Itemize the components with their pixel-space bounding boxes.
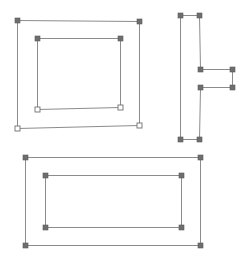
- vertex-handle-filled[interactable]: [230, 67, 235, 72]
- vertex-handle-filled[interactable]: [198, 243, 203, 248]
- polygon-outline[interactable]: [38, 39, 121, 110]
- vertex-handle-hollow[interactable]: [137, 123, 142, 128]
- vertex-handle-filled[interactable]: [198, 155, 203, 160]
- diagram-canvas: [0, 0, 246, 273]
- vertex-handle-filled[interactable]: [198, 67, 203, 72]
- vertex-handle-filled[interactable]: [198, 85, 203, 90]
- vertex-handle-hollow[interactable]: [118, 105, 123, 110]
- vertex-handle-filled[interactable]: [118, 36, 123, 41]
- vertex-handle-filled[interactable]: [178, 13, 183, 18]
- polygon-outline[interactable]: [46, 176, 182, 228]
- shape-bottom-inner[interactable]: [43, 173, 184, 230]
- vertex-handle-filled[interactable]: [230, 85, 235, 90]
- vertex-handle-filled[interactable]: [178, 137, 183, 142]
- polygon-outline[interactable]: [26, 158, 201, 246]
- shape-bottom-outer[interactable]: [23, 155, 203, 248]
- vertex-handle-filled[interactable]: [137, 19, 142, 24]
- vertex-handle-hollow[interactable]: [15, 126, 20, 131]
- polygon-outline[interactable]: [181, 16, 233, 140]
- vertex-handle-filled[interactable]: [15, 18, 20, 23]
- vertex-handle-filled[interactable]: [179, 225, 184, 230]
- vertex-handle-filled[interactable]: [35, 36, 40, 41]
- shape-right-notched[interactable]: [178, 13, 235, 142]
- vertex-handle-filled[interactable]: [197, 13, 202, 18]
- vertex-handle-filled[interactable]: [23, 243, 28, 248]
- vertex-handle-filled[interactable]: [23, 155, 28, 160]
- vertex-handle-hollow[interactable]: [35, 107, 40, 112]
- vertex-handle-filled[interactable]: [197, 137, 202, 142]
- vertex-handle-filled[interactable]: [43, 225, 48, 230]
- shape-top-left-inner[interactable]: [35, 36, 123, 112]
- vertex-handle-filled[interactable]: [179, 173, 184, 178]
- shape-top-left-outer[interactable]: [15, 18, 142, 131]
- vertex-handle-filled[interactable]: [43, 173, 48, 178]
